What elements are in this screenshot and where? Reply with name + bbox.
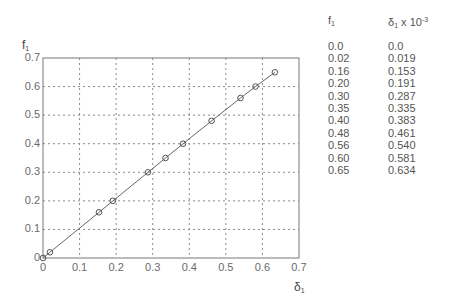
table-row: 0.300.287	[328, 90, 458, 102]
cell-delta1: 0.191	[388, 77, 416, 89]
x-tick-label: 0.6	[252, 261, 272, 273]
col2-sup: -3	[422, 16, 428, 23]
col2-suffix: x 10	[398, 16, 422, 28]
y-tick-label: 0.3	[10, 165, 40, 177]
cell-f1: 0.60	[328, 152, 349, 164]
cell-f1: 0.48	[328, 127, 349, 139]
cell-f1: 0.40	[328, 114, 349, 126]
x-axis-label-text: δ	[294, 280, 301, 294]
cell-f1: 0.65	[328, 164, 349, 176]
col-header-delta1: δ1 x 10-3	[388, 14, 428, 32]
x-axis-label-sub: 1	[301, 287, 305, 294]
cell-f1: 0.20	[328, 77, 349, 89]
table-row: 0.350.335	[328, 102, 458, 114]
x-tick-label: 0.4	[179, 261, 199, 273]
table-row: 0.600.581	[328, 152, 458, 164]
cell-delta1: 0.335	[388, 102, 416, 114]
cell-delta1: 0.287	[388, 90, 416, 102]
cell-f1: 0.56	[328, 139, 349, 151]
x-tick-label: 0.1	[70, 261, 90, 273]
cell-delta1: 0.019	[388, 52, 416, 64]
cell-f1: 0.30	[328, 90, 349, 102]
col1-sub: 1	[331, 20, 335, 27]
x-tick-label: 0.5	[216, 261, 236, 273]
cell-delta1: 0.383	[388, 114, 416, 126]
cell-f1: 0.16	[328, 65, 349, 77]
x-tick-label: 0.2	[106, 261, 126, 273]
table-row: 0.480.461	[328, 127, 458, 139]
data-table: f1 δ1 x 10-3 0.00.00.020.0190.160.1530.2…	[328, 14, 458, 176]
series-line	[43, 72, 275, 258]
y-tick-label: 0.2	[10, 194, 40, 206]
col-header-f1: f1	[328, 14, 335, 30]
table-row: 0.400.383	[328, 114, 458, 126]
table-row: 0.160.153	[328, 65, 458, 77]
cell-delta1: 0.581	[388, 152, 416, 164]
y-tick-label: 0.4	[10, 137, 40, 149]
cell-f1: 0.35	[328, 102, 349, 114]
y-tick-label: 0.5	[10, 108, 40, 120]
table-header: f1 δ1 x 10-3	[328, 14, 458, 40]
table-row: 0.560.540	[328, 139, 458, 151]
y-tick-label: 0.6	[10, 80, 40, 92]
y-axis-label: f1	[22, 38, 29, 52]
y-tick-label: 0.1	[10, 222, 40, 234]
cell-f1: 0.02	[328, 52, 349, 64]
table-row: 0.00.0	[328, 40, 458, 52]
plot-frame	[43, 58, 299, 258]
table-row: 0.650.634	[328, 164, 458, 176]
x-axis-label: δ1	[294, 280, 305, 294]
cell-delta1: 0.0	[388, 40, 403, 52]
x-tick-label: 0.3	[143, 261, 163, 273]
cell-delta1: 0.461	[388, 127, 416, 139]
cell-delta1: 0.540	[388, 139, 416, 151]
cell-delta1: 0.153	[388, 65, 416, 77]
table-body: 0.00.00.020.0190.160.1530.200.1910.300.2…	[328, 40, 458, 176]
y-tick-label: 0	[10, 251, 40, 263]
table-row: 0.200.191	[328, 77, 458, 89]
table-row: 0.020.019	[328, 52, 458, 64]
cell-f1: 0.0	[328, 40, 343, 52]
cell-delta1: 0.634	[388, 164, 416, 176]
y-tick-label: 0.7	[10, 51, 40, 63]
x-tick-label: 0.7	[289, 261, 309, 273]
